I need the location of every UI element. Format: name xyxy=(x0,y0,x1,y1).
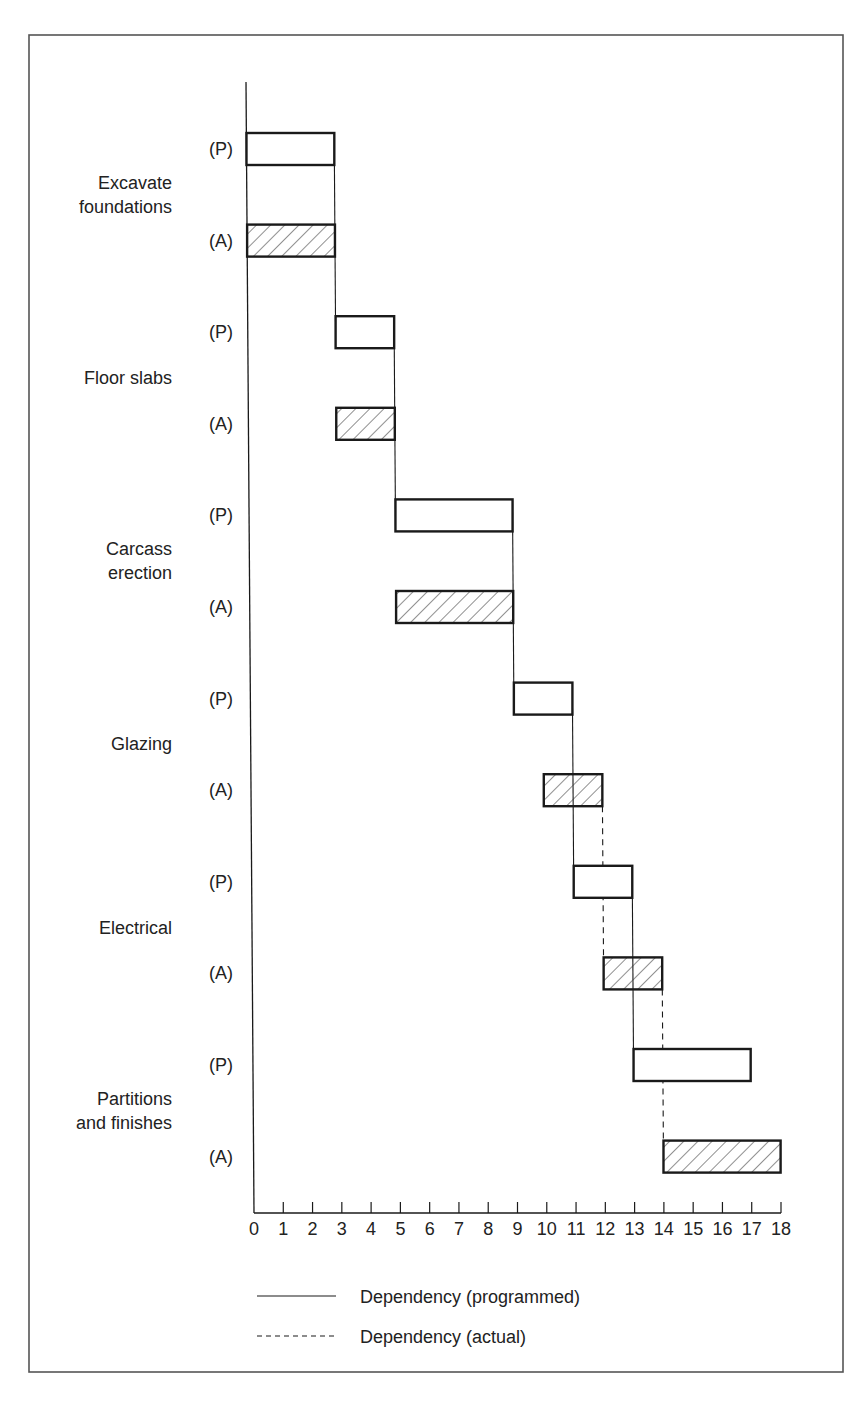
x-tick-label: 15 xyxy=(683,1219,703,1239)
row-label-programmed: (P) xyxy=(209,689,233,709)
gantt-chart: 0123456789101112131415161718 (P)(A)Excav… xyxy=(0,0,868,1403)
row-label-actual: (A) xyxy=(209,231,233,251)
x-tick-label: 11 xyxy=(567,1219,586,1239)
x-tick-label: 18 xyxy=(771,1219,791,1239)
bar-actual xyxy=(247,225,335,257)
row-label-programmed: (P) xyxy=(209,139,233,159)
row-label-programmed: (P) xyxy=(209,1055,233,1075)
x-tick-label: 16 xyxy=(712,1219,732,1239)
task-name-label: Electrical xyxy=(99,918,172,938)
x-tick-label: 2 xyxy=(308,1219,318,1239)
bar-actual xyxy=(544,774,603,806)
bar-actual xyxy=(663,1141,780,1173)
row-label-actual: (A) xyxy=(209,414,233,434)
task-name-label: foundations xyxy=(79,197,172,217)
task-name-label: Excavate xyxy=(98,173,172,193)
task-name-label: Floor slabs xyxy=(84,368,172,388)
legend-label-actual: Dependency (actual) xyxy=(360,1327,526,1347)
x-tick-label: 14 xyxy=(654,1219,674,1239)
bar-programmed xyxy=(395,499,512,531)
task-name-label: Partitions xyxy=(97,1089,172,1109)
x-tick-label: 8 xyxy=(483,1219,493,1239)
x-tick-label: 1 xyxy=(278,1219,288,1239)
row-label-programmed: (P) xyxy=(209,872,233,892)
row-label-programmed: (P) xyxy=(209,505,233,525)
row-label-programmed: (P) xyxy=(209,322,233,342)
x-tick-label: 10 xyxy=(537,1219,557,1239)
row-label-actual: (A) xyxy=(209,780,233,800)
row-label-actual: (A) xyxy=(209,1147,233,1167)
bar-programmed xyxy=(336,316,395,348)
task-name-label: Glazing xyxy=(111,734,172,754)
x-tick-label: 0 xyxy=(249,1219,259,1239)
bar-actual xyxy=(396,591,513,623)
bar-programmed xyxy=(246,133,334,165)
bar-actual xyxy=(336,408,395,440)
bar-programmed xyxy=(514,683,573,715)
bar-programmed xyxy=(634,1049,751,1081)
task-name-label: Carcass xyxy=(106,539,172,559)
x-tick-label: 4 xyxy=(366,1219,376,1239)
legend-label-programmed: Dependency (programmed) xyxy=(360,1287,580,1307)
x-tick-label: 9 xyxy=(512,1219,522,1239)
bar-actual xyxy=(604,957,663,989)
bar-programmed xyxy=(574,866,633,898)
legend: Dependency (programmed) Dependency (actu… xyxy=(257,1287,580,1347)
row-label-actual: (A) xyxy=(209,963,233,983)
x-tick-label: 5 xyxy=(395,1219,405,1239)
x-tick-label: 6 xyxy=(425,1219,435,1239)
row-label-actual: (A) xyxy=(209,597,233,617)
task-name-label: and finishes xyxy=(76,1113,172,1133)
x-tick-label: 12 xyxy=(595,1219,615,1239)
x-tick-label: 13 xyxy=(625,1219,645,1239)
task-name-label: erection xyxy=(108,563,172,583)
task-labels: (P)(A)Excavatefoundations(P)(A)Floor sla… xyxy=(76,139,233,1167)
x-tick-label: 7 xyxy=(454,1219,464,1239)
x-tick-label: 17 xyxy=(742,1219,762,1239)
x-tick-label: 3 xyxy=(337,1219,347,1239)
